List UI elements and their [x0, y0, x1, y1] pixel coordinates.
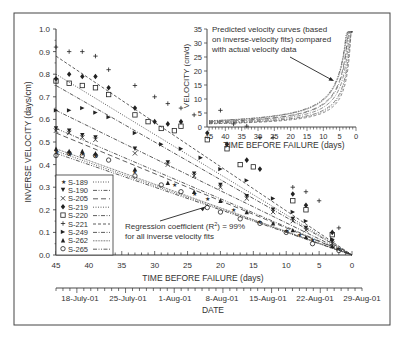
main-x-tick-label: 40	[84, 261, 93, 270]
svg-text:★: ★	[172, 182, 177, 188]
date-tick-label: 22-Aug-01	[296, 294, 334, 303]
svg-text:★: ★	[205, 196, 210, 202]
main-y-tick-label: 1.0	[39, 25, 51, 34]
main-y-tick-label: 0.1	[39, 228, 51, 237]
chart-figure: 0.00.10.20.30.40.50.60.70.80.91.04540353…	[0, 0, 402, 340]
inset-note-line2: on inverse-velocity fits) compared	[212, 35, 331, 44]
main-y-tick-label: 0.6	[39, 115, 51, 124]
inset-note-line3: with actual velocity data	[211, 45, 297, 54]
main-y-tick-label: 0.8	[39, 70, 51, 79]
main-y-tick-label: 0.5	[39, 138, 51, 147]
main-x-tick-label: 45	[52, 261, 61, 270]
svg-text:★: ★	[61, 179, 66, 185]
inset-y-tick-label: 10	[194, 95, 202, 104]
main-x-tick-label: 30	[150, 261, 159, 270]
main-y-tick-label: 0.9	[39, 48, 51, 57]
inset-y-tick-label: 35	[194, 25, 202, 34]
main-x-tick-label: 5	[317, 261, 322, 270]
main-x-axis-label: TIME BEFORE FAILURE (days)	[142, 273, 264, 283]
main-y-axis-label: INVERSE VELOCITY (days/cm)	[23, 81, 33, 202]
inset-y-axis-label: VELOCITY (cm/d)	[182, 44, 191, 109]
inset-y-tick-label: 30	[194, 39, 202, 48]
main-x-tick-label: 25	[183, 261, 192, 270]
svg-text:S-265: S-265	[68, 245, 88, 254]
inset-x-tick-label: 45	[205, 132, 213, 141]
inset-y-tick-label: 25	[194, 53, 202, 62]
date-tick-label: 8-Aug-01	[206, 294, 239, 303]
main-y-tick-label: 0.7	[39, 93, 51, 102]
date-tick-label: 1-Aug-01	[159, 294, 192, 303]
date-tick-label: 18-July-01	[61, 294, 99, 303]
main-y-tick-label: 0.4	[39, 161, 51, 170]
r2-annotation-line1: Regression coefficient (R2) = 99%	[125, 221, 245, 231]
legend: ★S-189S-190S-205S-219S-220S-221S-249S-26…	[56, 175, 113, 255]
main-y-tick-label: 0.0	[39, 251, 51, 260]
inset-x-tick-label: 0	[354, 132, 358, 141]
inset-y-tick-label: 20	[194, 67, 202, 76]
r2-annotation-line2: for all inverse velocity fits	[125, 232, 214, 241]
inset-note-line1: Predicted velocity curves (based	[212, 25, 327, 34]
main-x-tick-label: 20	[216, 261, 225, 270]
date-tick-label: 29-Aug-01	[343, 294, 381, 303]
svg-text:★: ★	[231, 207, 236, 213]
main-x-tick-label: 15	[249, 261, 258, 270]
inset-y-tick-label: 0	[198, 123, 202, 132]
main-x-tick-label: 10	[282, 261, 291, 270]
main-y-tick-label: 0.2	[39, 206, 51, 215]
inset-y-tick-label: 5	[198, 109, 202, 118]
date-tick-label: 15-Aug-01	[249, 294, 287, 303]
main-y-tick-label: 0.3	[39, 183, 51, 192]
date-tick-label: 25-July-01	[109, 294, 147, 303]
inset-x-axis-label: TIME BEFORE FAILURE (days)	[223, 140, 345, 150]
main-x-tick-label: 0	[350, 261, 355, 270]
main-x-tick-label: 35	[117, 261, 126, 270]
date-axis-label: DATE	[202, 305, 224, 315]
inset-y-tick-label: 15	[194, 81, 202, 90]
